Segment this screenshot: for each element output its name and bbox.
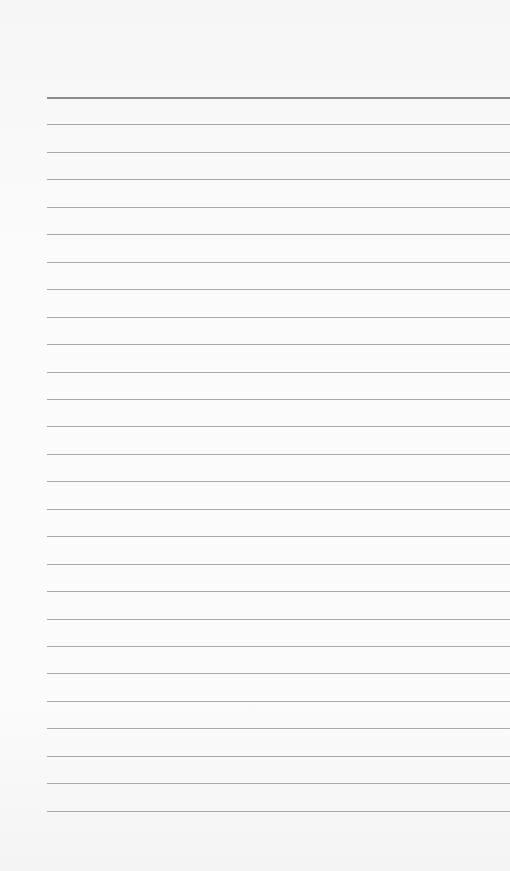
ruled-line xyxy=(47,97,510,99)
ruled-line xyxy=(47,756,510,757)
ruled-line xyxy=(47,564,510,565)
ruled-line xyxy=(47,536,510,537)
ruled-line xyxy=(47,673,510,674)
ruled-line xyxy=(47,372,510,373)
ruled-line xyxy=(47,317,510,318)
ruled-line xyxy=(47,262,510,263)
ruled-line xyxy=(47,509,510,510)
ruled-line xyxy=(47,811,510,812)
ruled-line xyxy=(47,124,510,125)
ruled-line xyxy=(47,426,510,427)
lined-paper xyxy=(0,0,510,871)
ruled-line xyxy=(47,344,510,345)
ruled-line xyxy=(47,728,510,729)
ruled-line xyxy=(47,207,510,208)
ruled-line xyxy=(47,481,510,482)
ruled-line xyxy=(47,289,510,290)
ruled-line xyxy=(47,591,510,592)
ruled-line xyxy=(47,454,510,455)
ruled-line xyxy=(47,152,510,153)
ruled-line xyxy=(47,619,510,620)
ruled-line xyxy=(47,179,510,180)
ruled-line xyxy=(47,701,510,702)
ruled-line xyxy=(47,646,510,647)
ruled-line xyxy=(47,399,510,400)
ruled-line xyxy=(47,783,510,784)
ruled-line xyxy=(47,234,510,235)
